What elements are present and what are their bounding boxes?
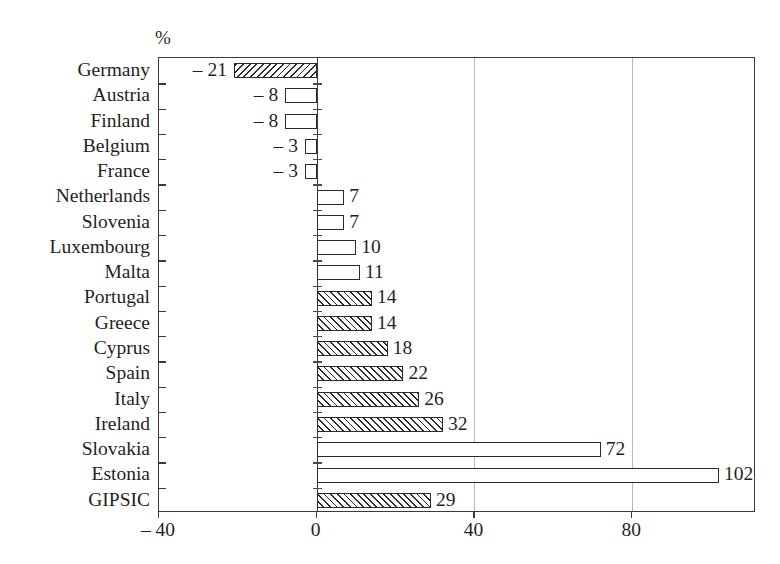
y-tick bbox=[159, 210, 166, 211]
category-label: Belgium bbox=[83, 133, 150, 158]
y-tick bbox=[159, 336, 166, 337]
zero-axis-tick bbox=[313, 83, 322, 84]
bar bbox=[317, 392, 420, 407]
category-label: Germany bbox=[77, 57, 150, 82]
y-tick bbox=[159, 184, 166, 185]
value-label: 7 bbox=[349, 183, 359, 208]
value-label: – 8 bbox=[254, 82, 278, 107]
y-tick bbox=[159, 235, 166, 236]
y-tick bbox=[159, 488, 166, 489]
category-label: GIPSIC bbox=[88, 487, 150, 512]
zero-axis-tick bbox=[313, 361, 322, 362]
zero-axis-tick bbox=[313, 412, 322, 413]
value-label: – 3 bbox=[274, 133, 298, 158]
category-label: Luxembourg bbox=[50, 234, 150, 259]
bar bbox=[317, 341, 388, 356]
value-label: 72 bbox=[606, 436, 626, 461]
plot-area bbox=[158, 57, 755, 512]
y-tick bbox=[159, 83, 166, 84]
bar bbox=[317, 291, 372, 306]
bar bbox=[317, 265, 360, 280]
category-label: Cyprus bbox=[94, 335, 150, 360]
y-tick bbox=[159, 462, 166, 463]
bar bbox=[285, 88, 317, 103]
x-tick-label: 40 bbox=[464, 518, 484, 542]
y-tick bbox=[159, 109, 166, 110]
category-label: Italy bbox=[114, 386, 150, 411]
value-label: 102 bbox=[724, 461, 753, 486]
bar bbox=[317, 442, 601, 457]
zero-axis-tick bbox=[313, 210, 322, 211]
category-label: Portugal bbox=[84, 284, 150, 309]
bar bbox=[317, 316, 372, 331]
y-tick bbox=[159, 134, 166, 135]
y-tick bbox=[159, 387, 166, 388]
unit-label: % bbox=[155, 28, 171, 47]
category-label: Slovakia bbox=[82, 436, 150, 461]
value-label: 11 bbox=[365, 259, 384, 284]
gridline-80 bbox=[632, 58, 633, 511]
zero-axis-tick bbox=[313, 488, 322, 489]
category-label: Finland bbox=[90, 108, 150, 133]
category-label: France bbox=[97, 158, 150, 183]
bar bbox=[285, 114, 317, 129]
category-label: Greece bbox=[95, 310, 150, 335]
y-tick bbox=[159, 159, 166, 160]
value-label: 7 bbox=[349, 209, 359, 234]
bar bbox=[317, 240, 356, 255]
bar bbox=[305, 164, 317, 179]
value-label: 14 bbox=[377, 310, 397, 335]
bar bbox=[317, 417, 443, 432]
value-label: 22 bbox=[408, 360, 428, 385]
zero-axis-tick bbox=[313, 235, 322, 236]
chart-figure: % Germany– 21Austria– 8Finland– 8Belgium… bbox=[0, 0, 780, 564]
value-label: 29 bbox=[436, 487, 456, 512]
zero-axis-tick bbox=[313, 134, 322, 135]
zero-axis-tick bbox=[313, 462, 322, 463]
bar bbox=[317, 190, 345, 205]
bar bbox=[317, 468, 719, 483]
value-label: 26 bbox=[424, 386, 444, 411]
zero-axis-tick bbox=[313, 184, 322, 185]
x-tick-label: – 40 bbox=[141, 518, 175, 542]
zero-axis-tick bbox=[313, 387, 322, 388]
bar bbox=[234, 63, 317, 78]
zero-axis-tick bbox=[313, 159, 322, 160]
zero-axis-tick bbox=[313, 437, 322, 438]
y-tick bbox=[159, 260, 166, 261]
zero-axis-tick bbox=[313, 311, 322, 312]
value-label: – 3 bbox=[274, 158, 298, 183]
category-label: Malta bbox=[105, 259, 150, 284]
zero-axis-tick bbox=[313, 260, 322, 261]
y-tick bbox=[159, 437, 166, 438]
category-label: Austria bbox=[93, 82, 150, 107]
category-label: Spain bbox=[106, 360, 150, 385]
y-tick bbox=[159, 361, 166, 362]
category-label: Ireland bbox=[95, 411, 150, 436]
value-label: 14 bbox=[377, 284, 397, 309]
value-label: 32 bbox=[448, 411, 468, 436]
y-tick bbox=[159, 286, 166, 287]
bar bbox=[305, 139, 317, 154]
value-label: 10 bbox=[361, 234, 381, 259]
y-tick bbox=[159, 412, 166, 413]
x-tick-label: 80 bbox=[621, 518, 641, 542]
x-tick-label: 0 bbox=[311, 518, 321, 542]
category-label: Estonia bbox=[92, 461, 151, 486]
bar bbox=[317, 493, 431, 508]
value-label: – 8 bbox=[254, 108, 278, 133]
zero-axis-tick bbox=[313, 286, 322, 287]
bar bbox=[317, 215, 345, 230]
y-tick bbox=[159, 311, 166, 312]
category-label: Slovenia bbox=[82, 209, 150, 234]
zero-axis-tick bbox=[313, 109, 322, 110]
value-label: – 21 bbox=[193, 57, 227, 82]
bar bbox=[317, 366, 404, 381]
zero-axis-tick bbox=[313, 336, 322, 337]
category-label: Netherlands bbox=[56, 183, 150, 208]
value-label: 18 bbox=[393, 335, 413, 360]
